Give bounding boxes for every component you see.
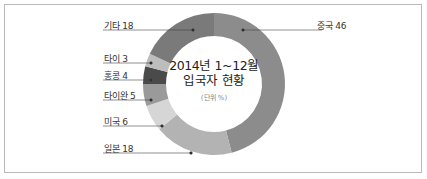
leader-dot-china <box>242 29 245 32</box>
label-thailand: 타이 3 <box>104 52 128 65</box>
center-title-line2: 입국자 현황 <box>166 73 262 89</box>
donut-segment-일본 <box>159 115 231 155</box>
label-china: 중국 46 <box>317 19 346 32</box>
center-unit: (단위 %) <box>166 92 262 102</box>
center-title-line1: 2014년 1~12월 <box>166 58 262 73</box>
donut-segment-기타 <box>150 13 214 64</box>
label-taiwan: 타이완 5 <box>104 89 136 102</box>
label-other: 기타 18 <box>104 19 133 32</box>
leader-dot-hongkong <box>150 79 153 82</box>
leader-dot-thailand <box>150 62 153 65</box>
label-japan: 일본 18 <box>104 142 133 155</box>
leader-dot-taiwan <box>150 99 153 102</box>
leader-dot-usa <box>161 125 164 128</box>
label-usa: 미국 6 <box>104 115 128 128</box>
label-hongkong: 홍콩 4 <box>104 69 128 82</box>
leader-dot-other <box>192 29 195 32</box>
chart-center-title: 2014년 1~12월 입국자 현황 (단위 %) <box>166 58 262 102</box>
leader-dot-japan <box>190 152 193 155</box>
